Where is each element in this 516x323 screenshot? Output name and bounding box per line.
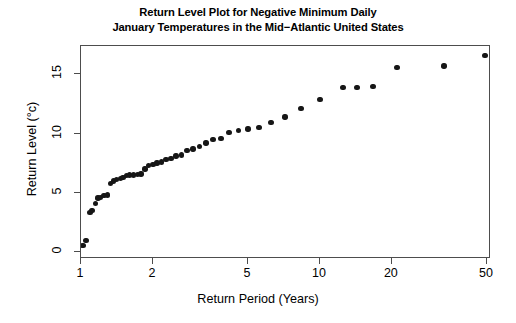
data-point xyxy=(203,140,208,145)
data-point xyxy=(394,65,399,70)
x-tick-label: 10 xyxy=(299,266,339,280)
data-point xyxy=(245,126,250,131)
data-point xyxy=(210,137,215,142)
y-tick-label: 0 xyxy=(50,239,64,261)
y-tick-label: 10 xyxy=(50,121,64,143)
x-tick-label: 2 xyxy=(132,266,172,280)
data-point xyxy=(256,125,261,130)
data-point xyxy=(89,208,94,213)
x-tick-mark xyxy=(80,258,81,264)
x-tick-label: 5 xyxy=(227,266,267,280)
y-tick-label: 15 xyxy=(50,61,64,83)
data-point xyxy=(236,128,241,133)
plot-panel xyxy=(80,45,490,258)
y-tick-mark xyxy=(74,133,80,134)
data-point xyxy=(105,192,110,197)
y-tick-mark xyxy=(74,73,80,74)
data-point xyxy=(190,146,195,151)
chart-title-line-2: January Temperatures in the Mid−Atlantic… xyxy=(0,20,516,35)
x-tick-label: 1 xyxy=(60,266,100,280)
data-point xyxy=(441,63,446,68)
data-point xyxy=(218,136,223,141)
x-tick-mark xyxy=(319,258,320,264)
chart-title: Return Level Plot for Negative Minimum D… xyxy=(0,5,516,35)
y-tick-label: 5 xyxy=(50,180,64,202)
data-point xyxy=(81,243,86,248)
x-tick-label: 50 xyxy=(466,266,506,280)
data-point xyxy=(138,171,143,176)
data-point xyxy=(93,201,98,206)
x-tick-mark xyxy=(152,258,153,264)
x-tick-label: 20 xyxy=(371,266,411,280)
data-point xyxy=(179,152,184,157)
data-point xyxy=(298,106,303,111)
data-point xyxy=(340,85,345,90)
data-point xyxy=(268,120,273,125)
data-point xyxy=(317,97,322,102)
data-point xyxy=(282,114,287,119)
y-axis-title: Return Level (°c) xyxy=(25,69,39,229)
data-point xyxy=(173,153,178,158)
x-tick-mark xyxy=(391,258,392,264)
x-axis-title: Return Period (Years) xyxy=(0,292,516,306)
data-point xyxy=(354,85,359,90)
data-point xyxy=(226,130,231,135)
return-level-plot: Return Level Plot for Negative Minimum D… xyxy=(0,0,516,323)
data-point xyxy=(482,53,487,58)
x-tick-mark xyxy=(247,258,248,264)
y-tick-mark xyxy=(74,251,80,252)
data-point xyxy=(83,238,88,243)
data-point xyxy=(184,148,189,153)
x-tick-mark xyxy=(486,258,487,264)
data-point xyxy=(370,84,375,89)
y-tick-mark xyxy=(74,192,80,193)
data-point xyxy=(197,144,202,149)
scatter-points-layer xyxy=(81,46,489,257)
chart-title-line-1: Return Level Plot for Negative Minimum D… xyxy=(0,5,516,20)
